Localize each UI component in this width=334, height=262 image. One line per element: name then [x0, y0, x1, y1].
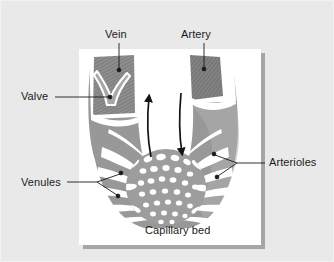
label-venules: Venules — [21, 177, 61, 188]
capillary-bed-figure: Vein Artery Valve Venules Arterioles Cap… — [0, 0, 334, 262]
label-artery: Artery — [181, 29, 211, 40]
figure-illustration — [1, 1, 334, 262]
label-arterioles: Arterioles — [269, 157, 316, 168]
label-vein: Vein — [105, 29, 127, 40]
label-capillary-bed: Capillary bed — [145, 225, 211, 236]
label-valve: Valve — [21, 91, 48, 102]
vein-segment — [87, 51, 141, 127]
